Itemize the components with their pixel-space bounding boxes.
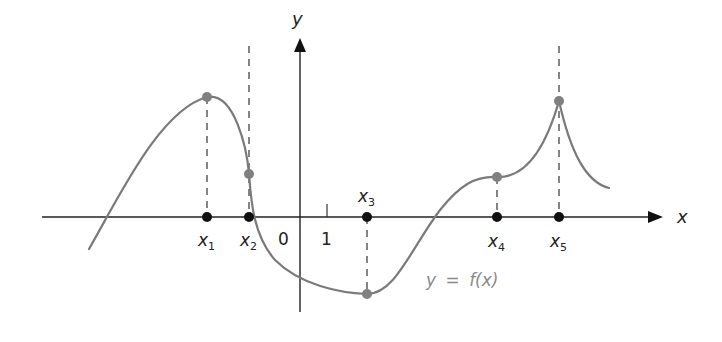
axis-point-x1 xyxy=(202,212,212,222)
axis-point-x3 xyxy=(362,212,372,222)
label-x2: x2 xyxy=(239,230,257,253)
axis-point-x4 xyxy=(492,212,502,222)
x-axis-arrow-icon xyxy=(648,211,663,223)
origin-label: 0 xyxy=(278,229,289,249)
axis-point-x2 xyxy=(244,212,254,222)
y-axis-label: y xyxy=(291,8,303,29)
axis-point-x5 xyxy=(554,212,564,222)
curve-point-x5 xyxy=(554,96,564,106)
curve-point-x3 xyxy=(362,289,372,299)
label-x1: x1 xyxy=(197,230,215,253)
y-axis-arrow-icon xyxy=(294,38,306,52)
unit-tick-label: 1 xyxy=(321,229,332,249)
function-graph: x y 0 1 x1 x2 x3 x4 x5 y = f(x) xyxy=(0,0,722,342)
curve-point-x2 xyxy=(244,169,254,179)
curve-point-x1 xyxy=(202,92,212,102)
label-x3: x3 xyxy=(357,186,375,209)
label-x5: x5 xyxy=(549,231,567,254)
curve-points xyxy=(202,92,564,299)
guide-lines xyxy=(207,46,559,294)
x-axis-label: x xyxy=(676,206,688,227)
label-x4: x4 xyxy=(487,231,505,254)
function-curve xyxy=(89,97,609,294)
curve-point-x4 xyxy=(492,172,502,182)
axes xyxy=(42,38,663,312)
curve-equation-label: y = f(x) xyxy=(425,270,498,290)
